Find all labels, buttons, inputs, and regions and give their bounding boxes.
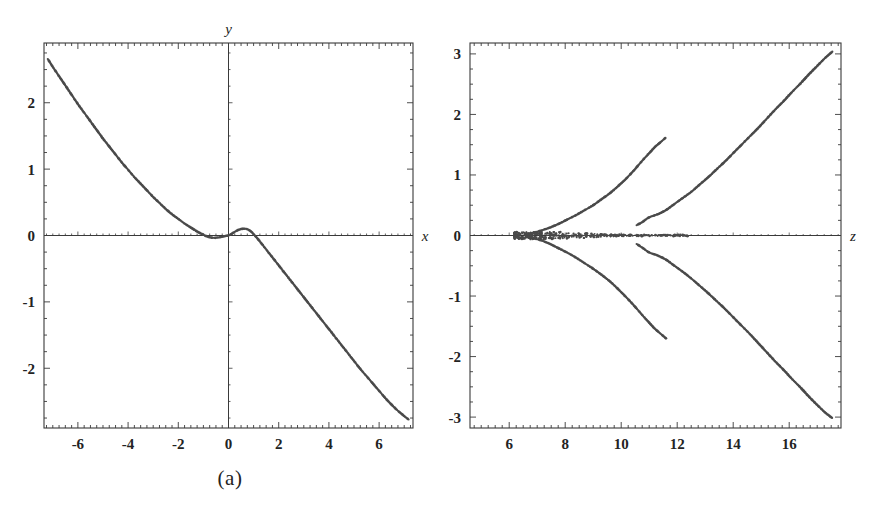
data-point <box>677 234 680 237</box>
data-point <box>630 234 632 236</box>
data-point <box>664 137 667 140</box>
data-point <box>580 236 582 238</box>
data-point <box>552 237 554 239</box>
data-point <box>521 232 523 234</box>
x-tick-label: 8 <box>561 436 569 452</box>
data-point <box>681 234 684 237</box>
data-point <box>537 234 539 236</box>
data-point <box>538 238 540 240</box>
data-point <box>661 234 664 237</box>
data-point <box>593 236 595 238</box>
y-tick-label: 0 <box>28 228 36 244</box>
y-tick-label: 2 <box>454 107 462 123</box>
data-point <box>518 236 520 238</box>
data-point <box>540 232 542 234</box>
data-point <box>546 234 548 236</box>
x-tick-label: 16 <box>782 436 798 452</box>
data-point <box>644 234 646 236</box>
data-point <box>553 233 556 236</box>
data-point <box>664 234 666 236</box>
data-point <box>589 235 591 237</box>
data-point <box>831 51 833 53</box>
y-tick-label: -2 <box>449 349 462 365</box>
y-tick-label: -2 <box>23 361 36 377</box>
x-tick-label: 2 <box>275 436 283 452</box>
data-point <box>407 418 409 420</box>
data-point <box>568 232 570 234</box>
data-point <box>516 231 518 233</box>
data-point <box>556 235 558 237</box>
data-point <box>831 417 833 419</box>
x-tick-label: 6 <box>375 436 383 452</box>
data-point <box>523 237 525 239</box>
data-point <box>615 235 618 238</box>
data-point <box>675 234 677 236</box>
data-point <box>626 235 628 237</box>
data-point <box>584 234 586 236</box>
plot-a: -6-4-20246-2-1012xy <box>0 0 441 466</box>
y-tick-label: -1 <box>23 294 36 310</box>
panel-b: 6810121416-3-2-10123z (b) <box>440 0 881 516</box>
data-point <box>558 236 561 239</box>
series-group <box>513 51 833 419</box>
data-point <box>604 235 606 237</box>
y-tick-label: 3 <box>454 46 462 62</box>
data-point <box>530 231 532 233</box>
data-point <box>566 233 568 235</box>
y-tick-label: 2 <box>28 95 36 111</box>
data-point <box>686 235 689 238</box>
data-point <box>667 234 670 237</box>
data-point <box>606 235 608 237</box>
axis-label-x: z <box>849 228 856 244</box>
data-point <box>528 235 530 237</box>
x-tick-label: 0 <box>225 436 233 452</box>
data-point <box>553 231 555 233</box>
x-tick-label: 14 <box>726 436 742 452</box>
data-point <box>570 235 572 237</box>
data-point <box>654 234 657 237</box>
data-point <box>544 232 546 234</box>
data-point <box>606 234 608 236</box>
data-point <box>532 238 534 240</box>
x-tick-label: 12 <box>670 436 685 452</box>
data-point <box>641 235 643 237</box>
data-point <box>573 236 575 238</box>
data-point <box>590 232 593 235</box>
data-point <box>572 232 574 234</box>
data-point <box>533 236 535 238</box>
x-tick-label: 10 <box>614 436 629 452</box>
data-point <box>643 235 645 237</box>
data-point <box>637 234 639 236</box>
data-point <box>561 236 563 238</box>
data-point <box>600 234 602 236</box>
y-tick-label: 0 <box>454 228 462 244</box>
figure-container: -6-4-20246-2-1012xy (a) 6810121416-3-2-1… <box>0 0 881 516</box>
data-point <box>514 232 516 234</box>
data-point <box>568 236 571 239</box>
data-point <box>647 234 649 236</box>
panel-a: -6-4-20246-2-1012xy (a) <box>0 0 441 516</box>
data-point <box>576 236 578 238</box>
data-point <box>521 236 523 238</box>
data-point <box>530 235 533 238</box>
x-tick-label: -6 <box>72 436 85 452</box>
data-point <box>584 232 586 234</box>
data-point <box>594 233 596 235</box>
x-tick-label: 4 <box>325 436 333 452</box>
plot-area-b: 6810121416-3-2-10123z <box>449 43 857 452</box>
data-point <box>523 232 525 234</box>
y-tick-label: -1 <box>449 289 462 305</box>
data-point <box>558 231 560 233</box>
axis-label-x: x <box>421 228 429 244</box>
data-point <box>555 237 557 239</box>
series-path-1 <box>526 237 666 339</box>
data-point <box>595 236 597 238</box>
data-point <box>544 236 546 238</box>
axis-label-y: y <box>223 21 232 37</box>
data-point <box>651 234 653 236</box>
data-point <box>612 234 614 236</box>
data-point <box>618 235 620 237</box>
data-point <box>583 237 585 239</box>
plot-area-a: -6-4-20246-2-1012xy <box>23 21 429 452</box>
data-point <box>575 233 577 235</box>
